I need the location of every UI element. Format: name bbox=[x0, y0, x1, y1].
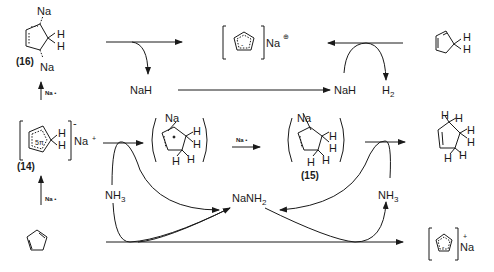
c16-h1: H bbox=[57, 29, 65, 40]
reagent-na-mid: Na • bbox=[236, 135, 247, 146]
c15-h3: H bbox=[307, 157, 315, 168]
radical-h4: H bbox=[187, 154, 195, 165]
cyclopentadiene-top-right bbox=[436, 31, 461, 53]
c14-cation-charge: + bbox=[92, 133, 96, 144]
cyclopentadiene-bottom-left bbox=[27, 230, 47, 250]
cpd-right-h2: H bbox=[463, 44, 471, 55]
cyclopentene-h1: H bbox=[441, 110, 449, 121]
cyclopentene-h3: H bbox=[467, 125, 475, 136]
radical-na: Na bbox=[165, 113, 179, 124]
reagent-na-up-bottom: Na • bbox=[45, 194, 56, 205]
cyclopentene-h2: H bbox=[455, 113, 463, 124]
cpna-top-charge: ⊕ bbox=[283, 31, 289, 42]
c15-h1: H bbox=[329, 131, 337, 142]
c15-label: (15) bbox=[301, 170, 319, 181]
c16-na-top: Na bbox=[37, 6, 51, 17]
curve-nanh2-left bbox=[138, 208, 230, 242]
reagent-nh3-right: NH3 bbox=[378, 190, 398, 201]
cpna-bottom-ring-charge: - bbox=[442, 241, 444, 252]
c14-h2: H bbox=[58, 140, 66, 151]
c16-h2: H bbox=[57, 41, 65, 52]
arrow-bottom-right-nh3 bbox=[265, 202, 386, 242]
c14-charge: - bbox=[73, 118, 77, 129]
cpna-bottom-counterion: Na bbox=[460, 242, 474, 253]
reagent-na-up-top: Na • bbox=[45, 88, 56, 99]
arrow-nh3-to-nanh2-left bbox=[112, 142, 219, 210]
compound-16-ring bbox=[26, 16, 55, 58]
reagent-h2: H2 bbox=[382, 85, 394, 96]
cyclopentene-h6: H bbox=[459, 150, 467, 161]
reagent-nh3-left: NH3 bbox=[105, 190, 125, 201]
c14-label: (14) bbox=[17, 161, 35, 172]
radical-h3: H bbox=[172, 156, 180, 167]
c16-label: (16) bbox=[16, 56, 34, 67]
c14-ring-text: 5π bbox=[35, 137, 44, 148]
radical-h2: H bbox=[193, 139, 201, 150]
cpna-top-counterion: Na bbox=[266, 38, 280, 49]
c15-h2: H bbox=[329, 143, 337, 154]
cpd-right-h1: H bbox=[463, 32, 471, 43]
cpna-top-ring-charge: - bbox=[241, 39, 243, 50]
reagent-nah-right: NaH bbox=[334, 85, 356, 96]
c15-na: Na bbox=[297, 113, 311, 124]
radical-dot bbox=[173, 136, 175, 138]
c15-h4: H bbox=[322, 155, 330, 166]
c14-counterion: Na bbox=[74, 136, 88, 147]
c14-h1: H bbox=[58, 128, 66, 139]
cpna-top bbox=[223, 26, 264, 59]
c16-na-bottom: Na bbox=[40, 62, 54, 73]
radical-h1: H bbox=[193, 126, 201, 137]
arrow-to-nah bbox=[132, 42, 148, 74]
reagent-nah-left: NaH bbox=[130, 85, 152, 96]
cyclopentene-h5: H bbox=[444, 153, 452, 164]
arrow-bottom-left-nh3 bbox=[113, 203, 230, 242]
arrow-nah-to-h2 bbox=[344, 43, 386, 80]
reagent-nanh2: NaNH2 bbox=[232, 193, 266, 204]
cyclopentene-h4: H bbox=[467, 137, 475, 148]
